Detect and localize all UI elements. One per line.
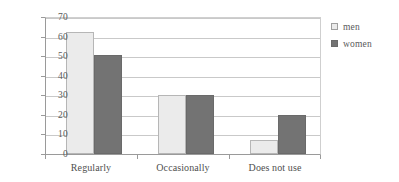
ytick-label-40: 40 (44, 71, 68, 81)
bar-chart: 70 60 50 40 30 20 10 0 Regularly Occasio… (0, 0, 399, 182)
bar-men-does-not-use (250, 140, 278, 154)
bar-women-does-not-use (278, 115, 306, 154)
plot-area (45, 17, 321, 155)
legend-label-men: men (343, 22, 360, 32)
legend-item-men: men (331, 20, 397, 33)
legend-label-women: women (343, 39, 372, 49)
ytick-mark-70 (41, 17, 45, 18)
ytick-mark-10 (41, 134, 45, 135)
chart-legend: men women (331, 20, 397, 54)
ytick-mark-40 (41, 76, 45, 77)
ytick-label-0: 0 (44, 149, 68, 159)
xcat-label-does-not-use: Does not use (229, 162, 321, 174)
ytick-mark-50 (41, 56, 45, 57)
xtick-mark-3 (320, 155, 321, 159)
ytick-mark-20 (41, 115, 45, 116)
xcat-label-occasionally: Occasionally (137, 162, 229, 174)
ytick-label-10: 10 (44, 129, 68, 139)
ytick-label-30: 30 (44, 90, 68, 100)
legend-swatch-men-icon (331, 23, 338, 30)
ytick-label-70: 70 (44, 12, 68, 22)
ytick-label-20: 20 (44, 110, 68, 120)
ytick-mark-30 (41, 95, 45, 96)
bar-men-occasionally (158, 95, 186, 154)
bar-men-regularly (66, 32, 94, 154)
xtick-mark-2 (229, 155, 230, 159)
legend-item-women: women (331, 37, 397, 50)
gridline-70 (46, 18, 320, 19)
ytick-label-50: 50 (44, 51, 68, 61)
xcat-label-regularly: Regularly (45, 162, 137, 174)
xtick-mark-0 (45, 155, 46, 159)
bar-women-regularly (94, 55, 122, 154)
xtick-mark-1 (137, 155, 138, 159)
bar-women-occasionally (186, 95, 214, 154)
legend-swatch-women-icon (331, 40, 338, 47)
ytick-label-60: 60 (44, 32, 68, 42)
ytick-mark-60 (41, 37, 45, 38)
